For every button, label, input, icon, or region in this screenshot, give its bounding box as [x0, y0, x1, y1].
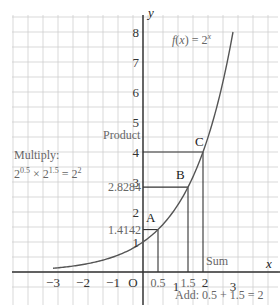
x-tick-label: −1	[106, 275, 120, 290]
point-label-B: B	[176, 167, 185, 182]
point-label-A: A	[146, 210, 156, 225]
sum-label: Sum	[206, 254, 229, 268]
y-tick-label: 8	[133, 25, 140, 40]
multiply-title: Multiply:	[14, 148, 59, 162]
exponential-chart: 123456781.41422.8284−3−2−1O0.511.523 ABC…	[0, 0, 280, 305]
function-label: f(x) = 2x	[172, 32, 211, 47]
product-label: Product	[103, 128, 141, 142]
y-tick-label: 7	[133, 55, 140, 70]
y-tick-label: 4	[133, 145, 140, 160]
y-value-label: 2.8284	[108, 180, 141, 194]
y-axis-label: y	[146, 5, 154, 20]
point-label-C: C	[195, 134, 204, 149]
y-value-label: 1.4142	[108, 223, 141, 237]
x-tick-label: O	[128, 275, 137, 290]
point-labels: ABC	[146, 134, 204, 225]
multiply-equation: 20.5 × 21.5 = 22	[14, 166, 82, 181]
x-tick-label: −2	[76, 275, 90, 290]
y-tick-label: 6	[133, 85, 140, 100]
y-tick-label: 1	[133, 235, 140, 250]
y-tick-label: 2	[133, 205, 140, 220]
x-tick-label: −3	[46, 275, 60, 290]
x-axis-label: x	[265, 256, 272, 271]
add-equation: Add: 0.5 + 1.5 = 2	[175, 288, 264, 302]
x-tick-label: 0.5	[151, 276, 166, 290]
